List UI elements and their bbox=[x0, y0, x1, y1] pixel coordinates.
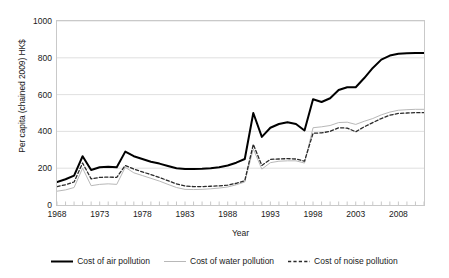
series-line bbox=[57, 53, 424, 182]
x-axis-tick-label: 1968 bbox=[37, 208, 77, 220]
legend-line-swatch bbox=[288, 258, 310, 265]
legend-item: Cost of water pollution bbox=[164, 256, 274, 266]
x-axis-title: Year bbox=[56, 228, 425, 238]
series-line bbox=[57, 109, 424, 191]
y-axis-tick-label: 800 bbox=[6, 53, 52, 63]
legend-item: Cost of air pollution bbox=[51, 256, 150, 266]
x-axis-tick-label: 1988 bbox=[208, 208, 248, 220]
y-axis-tick-label: 200 bbox=[6, 163, 52, 173]
legend-line-swatch bbox=[51, 258, 73, 265]
y-axis-tick-label: 600 bbox=[6, 90, 52, 100]
series-canvas bbox=[57, 21, 424, 205]
legend-item: Cost of noise pollution bbox=[288, 256, 398, 266]
legend-label: Cost of noise pollution bbox=[314, 256, 398, 266]
x-axis-tick-labels: 196819731978198319881993199820032008 bbox=[56, 208, 425, 222]
legend-line-swatch bbox=[164, 258, 186, 265]
y-axis-tick-label: 400 bbox=[6, 126, 52, 136]
x-axis-tick-label: 1993 bbox=[250, 208, 290, 220]
legend-label: Cost of air pollution bbox=[77, 256, 150, 266]
x-axis-tick-label: 2008 bbox=[378, 208, 418, 220]
y-axis-tick-label: 1000 bbox=[6, 16, 52, 26]
pollution-cost-chart: Per capita (chained 2009) HK$ 0200400600… bbox=[0, 0, 449, 278]
x-axis-tick-label: 1983 bbox=[165, 208, 205, 220]
legend-label: Cost of water pollution bbox=[190, 256, 274, 266]
x-axis-tick-label: 1978 bbox=[122, 208, 162, 220]
x-axis-tick-label: 1973 bbox=[80, 208, 120, 220]
x-axis-tick-label: 1998 bbox=[293, 208, 333, 220]
y-axis-tick-labels: 02004006008001000 bbox=[0, 20, 52, 206]
chart-legend: Cost of air pollutionCost of water pollu… bbox=[0, 252, 449, 270]
plot-area bbox=[56, 20, 425, 206]
x-axis-tick-label: 2003 bbox=[336, 208, 376, 220]
series-line bbox=[57, 113, 424, 187]
